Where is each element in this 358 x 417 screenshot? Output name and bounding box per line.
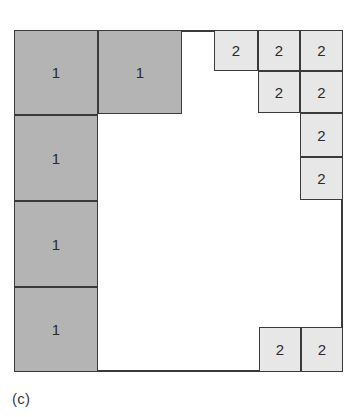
packed-block-b6: 2 [214,30,258,71]
packed-block-b12: 2 [300,157,343,200]
block-label: 1 [52,237,60,252]
packed-block-b3: 1 [14,115,98,201]
block-label: 2 [232,43,240,58]
packing-bin-area: 11111222222222 [14,30,343,372]
packed-block-b10: 2 [300,71,343,113]
block-label: 2 [275,85,283,100]
block-label: 2 [317,128,325,143]
block-label: 2 [276,342,284,357]
packed-block-b1: 1 [14,30,98,115]
packed-block-b4: 1 [14,201,98,287]
packed-block-b11: 2 [300,113,343,157]
block-label: 1 [52,151,60,166]
packed-block-b9: 2 [258,71,300,113]
packed-block-b13: 2 [259,327,301,372]
block-label: 1 [52,65,60,80]
block-label: 2 [317,43,325,58]
figure-root: 11111222222222 (c) [0,0,358,417]
block-label: 2 [275,43,283,58]
packed-block-b8: 2 [300,30,343,71]
block-label: 1 [52,322,60,337]
block-label: 2 [318,342,326,357]
block-label: 1 [136,65,144,80]
packed-block-b2: 1 [98,30,182,114]
packed-block-b7: 2 [258,30,300,71]
figure-caption: (c) [12,390,30,407]
packed-block-b14: 2 [301,327,343,372]
packed-block-b5: 1 [14,287,98,372]
block-label: 2 [317,85,325,100]
block-label: 2 [317,171,325,186]
